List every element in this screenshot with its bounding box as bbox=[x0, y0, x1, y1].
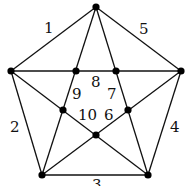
vertex-inner-upper-right bbox=[112, 67, 119, 74]
label-3: 3 bbox=[92, 176, 102, 186]
label-1: 1 bbox=[44, 19, 54, 37]
vertex-inner-mid-left bbox=[59, 106, 66, 113]
label-2: 2 bbox=[10, 118, 20, 136]
vertex-left bbox=[7, 67, 14, 74]
label-8: 8 bbox=[91, 73, 101, 91]
edge-1 bbox=[11, 7, 96, 71]
label-9: 9 bbox=[72, 85, 82, 103]
graph-diagram: 1 5 2 4 3 8 9 7 10 6 bbox=[0, 0, 186, 186]
vertex-inner-upper-left bbox=[72, 67, 79, 74]
label-10: 10 bbox=[78, 106, 97, 124]
vertex-bottom-left bbox=[38, 171, 45, 178]
vertex-bottom-right bbox=[144, 171, 151, 178]
labels: 1 5 2 4 3 8 9 7 10 6 bbox=[10, 19, 180, 186]
vertex-inner-mid-right bbox=[124, 106, 131, 113]
label-5: 5 bbox=[139, 20, 149, 38]
label-7: 7 bbox=[107, 85, 117, 103]
vertex-right bbox=[177, 67, 184, 74]
vertex-top bbox=[92, 3, 99, 10]
edge-5 bbox=[96, 7, 181, 71]
vertices bbox=[7, 3, 184, 178]
vertex-inner-bottom bbox=[92, 131, 99, 138]
label-4: 4 bbox=[170, 118, 180, 136]
label-6: 6 bbox=[104, 106, 114, 124]
